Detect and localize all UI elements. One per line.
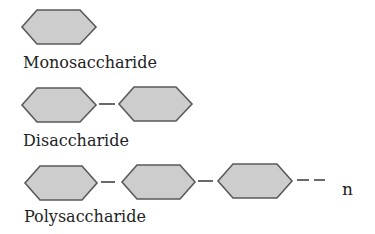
sugar-unit-hexagon-icon <box>22 10 96 44</box>
sugar-unit-hexagon-icon <box>218 164 292 198</box>
diagram-shapes <box>0 0 375 234</box>
polysaccharide-chain <box>25 164 325 200</box>
saccharide-diagram: Monosaccharide Disaccharide Polysacchari… <box>0 0 375 234</box>
sugar-unit-hexagon-icon <box>22 88 96 122</box>
sugar-unit-hexagon-icon <box>25 166 97 200</box>
disaccharide-label: Disaccharide <box>23 133 129 149</box>
polysaccharide-label: Polysaccharide <box>24 209 146 225</box>
repeat-count-n-label: n <box>342 181 353 198</box>
sugar-unit-hexagon-icon <box>122 165 195 199</box>
monosaccharide-chain <box>22 10 96 44</box>
disaccharide-chain <box>22 87 192 122</box>
monosaccharide-label: Monosaccharide <box>23 55 157 71</box>
sugar-unit-hexagon-icon <box>119 87 192 121</box>
